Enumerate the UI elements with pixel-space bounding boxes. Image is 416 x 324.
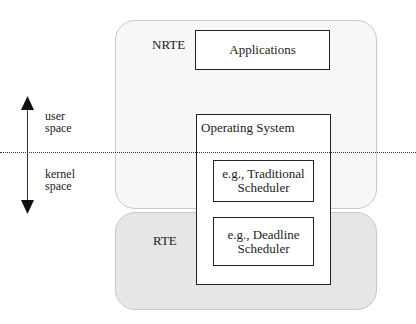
user-line2: space xyxy=(45,122,72,134)
deadline-scheduler-box: e.g., Deadline Scheduler xyxy=(213,217,314,266)
user-kernel-boundary xyxy=(0,152,416,153)
traditional-line2: Scheduler xyxy=(238,181,290,195)
deadline-line2: Scheduler xyxy=(238,242,290,256)
deadline-line1: e.g., Deadline xyxy=(227,228,299,242)
rte-label: RTE xyxy=(153,233,177,249)
applications-label: Applications xyxy=(229,43,295,57)
arrow-down-icon xyxy=(21,200,34,214)
nrte-label: NRTE xyxy=(152,37,185,53)
traditional-line1: e.g., Traditional xyxy=(222,167,304,181)
axis-line xyxy=(27,100,28,210)
kernel-line2: space xyxy=(45,180,75,192)
os-label: Operating System xyxy=(201,120,295,136)
kernel-space-label: kernel space xyxy=(45,168,75,192)
arrow-up-icon xyxy=(21,96,34,110)
user-space-label: user space xyxy=(45,110,72,134)
traditional-scheduler-box: e.g., Traditional Scheduler xyxy=(213,160,314,202)
applications-box: Applications xyxy=(195,30,330,70)
